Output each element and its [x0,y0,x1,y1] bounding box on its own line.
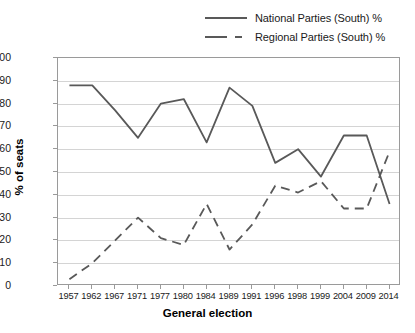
y-axis-tick-label: 60 [0,142,11,154]
y-axis-tick [53,148,57,149]
y-axis-tick [53,262,57,263]
x-axis-tick-label: 1998 [287,291,307,301]
y-axis-tick-label: 30 [0,211,11,223]
legend-label-national: National Parties (South) % [255,12,382,24]
y-axis-tick [53,239,57,240]
x-axis-tick-label: 1991 [241,291,261,301]
legend-item-regional: Regional Parties (South) % [205,27,385,46]
x-axis-tick [91,285,92,289]
x-axis-tick-label: 1989 [219,291,239,301]
x-axis-tick [297,285,298,289]
y-axis-tick-label: 80 [0,97,11,109]
x-axis-tick [274,285,275,289]
x-axis-tick-label: 2004 [333,291,353,301]
x-axis-tick-label: 2009 [356,291,376,301]
x-axis-tick [68,285,69,289]
y-axis-tick-label: 50 [0,165,11,177]
y-axis-tick-label: 20 [0,233,11,245]
x-axis-tick-label: 1971 [127,291,147,301]
x-axis-tick-label: 1996 [264,291,284,301]
y-axis-tick-label: 40 [0,188,11,200]
series-line-regional [69,151,389,279]
y-axis-title: % of seats [13,117,25,217]
y-axis-tick [53,285,57,286]
chart-legend: National Parties (South) % Regional Part… [205,8,385,46]
x-axis-tick [114,285,115,289]
y-axis-tick-label: 0 [0,279,11,291]
y-axis-tick [53,217,57,218]
y-axis-tick [53,194,57,195]
x-axis-tick-label: 1962 [81,291,101,301]
series-line-national [69,85,389,204]
y-axis-tick [53,57,57,58]
y-axis-tick-label: 90 [0,74,11,86]
y-axis-tick [53,125,57,126]
y-axis-tick-label: 100 [0,51,11,63]
x-axis-tick [206,285,207,289]
y-axis-tick-label: 70 [0,119,11,131]
x-axis-tick [229,285,230,289]
x-axis-tick [366,285,367,289]
legend-swatch-solid-line-icon [205,12,247,24]
x-axis-tick-label: 1980 [173,291,193,301]
plot-area [57,57,400,285]
x-axis-tick [343,285,344,289]
legend-label-regional: Regional Parties (South) % [255,31,385,43]
chart-container: National Parties (South) % Regional Part… [0,0,415,333]
x-axis-title: General election [0,307,415,319]
x-axis-tick-label: 2014 [379,291,399,301]
x-axis-tick-label: 1977 [150,291,170,301]
x-axis-tick [160,285,161,289]
y-axis-tick [53,80,57,81]
x-axis-tick [389,285,390,289]
x-axis-tick [183,285,184,289]
y-axis-tick-label: 10 [0,256,11,268]
x-axis-tick [251,285,252,289]
x-axis-tick-label: 1957 [58,291,78,301]
x-axis-tick [137,285,138,289]
y-axis-tick [53,171,57,172]
legend-swatch-dashed-line-icon [205,31,247,43]
x-axis-tick [320,285,321,289]
data-lines [58,58,401,286]
x-axis-tick-label: 1999 [310,291,330,301]
x-axis-tick-label: 1967 [104,291,124,301]
y-axis-tick [53,103,57,104]
legend-item-national: National Parties (South) % [205,8,385,27]
x-axis-tick-label: 1984 [196,291,216,301]
